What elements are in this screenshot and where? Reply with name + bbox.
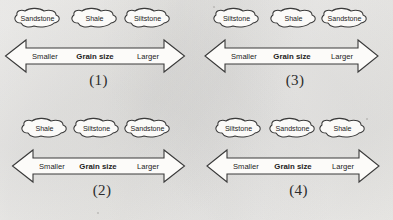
bubble-label: Sandstone [131,125,165,133]
scan-speck [366,118,368,120]
option-number-1: (1) [0,72,197,89]
bubble-label: Shale [35,125,53,133]
scan-speck [213,6,215,8]
option-number-4: (4) [204,182,393,199]
options-grid: Sandstone Shale Siltstone Smaller Grain … [0,0,393,220]
axis-label-left: Smaller [233,162,259,171]
option-number-3: (3) [197,72,393,89]
bubble-label: Sandstone [21,15,55,23]
bubble-label: Sandstone [328,15,362,23]
bubble-label: Siltstone [83,125,110,133]
option-4-diagram: Siltstone Sandstone Shale Smaller Grain … [204,110,393,220]
axis-label-center: Grain size [273,52,311,61]
axis-label-left: Smaller [231,52,257,61]
option-2-diagram: Shale Siltstone Sandstone Smaller Grain … [7,110,204,220]
scan-speck [97,212,99,214]
option-panel-1[interactable]: Sandstone Shale Siltstone Smaller Grain … [0,0,197,110]
option-panel-2[interactable]: Shale Siltstone Sandstone Smaller Grain … [0,110,197,220]
bubble-label: Siltstone [134,15,161,23]
axis-label-center: Grain size [274,162,312,171]
axis-label-right: Larger [137,162,159,171]
option-panel-4[interactable]: Siltstone Sandstone Shale Smaller Grain … [197,110,393,220]
axis-label-center: Grain size [79,162,117,171]
bubble-label: Sandstone [276,125,310,133]
option-panel-3[interactable]: Siltstone Shale Sandstone Smaller Grain … [197,0,393,110]
option-number-2: (2) [7,182,197,199]
bubble-label: Shale [284,15,302,23]
bubble-label: Shale [333,125,351,133]
option-1-diagram: Sandstone Shale Siltstone Smaller Grain … [0,0,197,110]
axis-label-right: Larger [332,162,354,171]
bubble-label: Shale [85,15,103,23]
axis-label-left: Smaller [32,52,58,61]
axis-label-right: Larger [137,52,159,61]
option-3-diagram: Siltstone Shale Sandstone Smaller Grain … [197,0,393,110]
bubble-label: Siltstone [223,15,250,23]
axis-label-center: Grain size [76,52,114,61]
axis-label-right: Larger [331,52,353,61]
axis-label-left: Smaller [39,162,65,171]
bubble-label: Siltstone [225,125,252,133]
